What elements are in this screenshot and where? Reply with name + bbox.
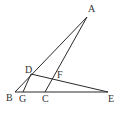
label-G: G: [19, 93, 26, 104]
label-A: A: [88, 3, 96, 14]
label-B: B: [6, 92, 13, 103]
label-D: D: [25, 64, 32, 75]
segment-DE: [31, 74, 108, 92]
label-C: C: [42, 93, 49, 104]
label-F: F: [57, 69, 63, 80]
label-E: E: [108, 93, 114, 104]
geometry-diagram: A B G C E D F: [0, 0, 124, 114]
diagram-svg: A B G C E D F: [0, 0, 124, 114]
